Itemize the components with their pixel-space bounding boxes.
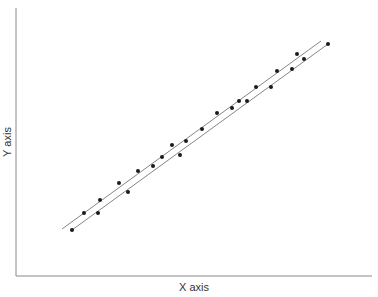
regression-lines	[62, 41, 328, 230]
data-point	[237, 99, 241, 103]
scatter-chart: X axis Y axis	[0, 0, 378, 297]
data-point	[275, 69, 279, 73]
data-point	[117, 181, 121, 185]
data-point	[136, 169, 140, 173]
y-axis-label: Y axis	[1, 127, 13, 157]
data-point	[200, 127, 204, 131]
data-point	[82, 211, 86, 215]
x-axis-label: X axis	[179, 281, 209, 293]
data-point	[178, 153, 182, 157]
data-point	[295, 52, 299, 56]
data-point	[126, 190, 130, 194]
data-point	[170, 143, 174, 147]
data-point	[302, 57, 306, 61]
fit-line-lower	[72, 44, 328, 230]
data-point	[151, 164, 155, 168]
data-point	[269, 85, 273, 89]
data-point	[290, 67, 294, 71]
data-point	[160, 155, 164, 159]
data-point	[245, 99, 249, 103]
data-point	[230, 106, 234, 110]
data-point	[184, 139, 188, 143]
data-point	[98, 198, 102, 202]
data-point	[70, 228, 74, 232]
data-point	[215, 111, 219, 115]
data-point	[326, 42, 330, 46]
data-point	[96, 211, 100, 215]
data-point	[254, 85, 258, 89]
